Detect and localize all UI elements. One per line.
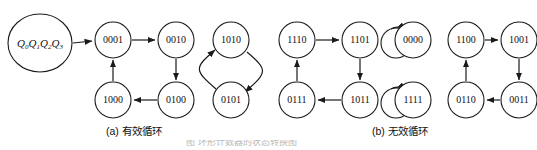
caption-invalid-cycle: (b) 无效循环 bbox=[372, 123, 428, 138]
source-state-node: Q0Q1Q2Q3 bbox=[8, 14, 72, 72]
state-label-1001: 1001 bbox=[509, 34, 529, 45]
state-label-0110: 0110 bbox=[456, 94, 476, 105]
state-label-0111: 0111 bbox=[287, 94, 306, 105]
state-label-1101: 1101 bbox=[350, 34, 370, 45]
state-label-1111: 1111 bbox=[404, 94, 423, 105]
bottom-partial-caption: 图 环形计数器的状态转换图 bbox=[186, 140, 297, 148]
state-label-1000: 1000 bbox=[103, 94, 123, 105]
state-label-0011: 0011 bbox=[509, 94, 529, 105]
state-label-0001: 0001 bbox=[103, 34, 123, 45]
edge-source-to-0001 bbox=[73, 41, 92, 43]
caption-valid-cycle: (a) 有效循环 bbox=[106, 123, 162, 138]
edge-0101-to-1010 bbox=[199, 50, 216, 89]
source-state-label: Q0Q1Q2Q3 bbox=[17, 37, 63, 51]
state-label-0000: 0000 bbox=[403, 34, 423, 45]
state-label-1010: 1010 bbox=[221, 34, 241, 45]
edge-1010-to-0101 bbox=[245, 52, 263, 92]
state-label-0100: 0100 bbox=[166, 94, 186, 105]
diagram-canvas: Q0Q1Q2Q3 0001 0010 0100 1000 1010 0101 1… bbox=[0, 0, 537, 150]
state-label-1011: 1011 bbox=[350, 94, 370, 105]
state-label-0010: 0010 bbox=[166, 34, 186, 45]
state-label-1100: 1100 bbox=[456, 34, 476, 45]
state-transition-diagram: Q0Q1Q2Q3 0001 0010 0100 1000 1010 0101 1… bbox=[0, 0, 537, 150]
state-label-0101: 0101 bbox=[221, 94, 241, 105]
bottom-cropped-text-strip: 图 环形计数器的状态转换图 bbox=[0, 140, 537, 150]
state-label-1110: 1110 bbox=[287, 34, 306, 45]
